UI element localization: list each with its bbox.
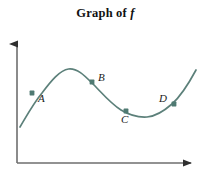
point-label-b: B <box>98 72 105 83</box>
plot-canvas <box>0 0 211 173</box>
point-label-d: D <box>159 93 167 104</box>
point-marker-a <box>30 91 35 96</box>
function-curve <box>20 69 196 127</box>
graph-figure: Graph of f A B C D <box>0 0 211 173</box>
point-label-c: C <box>121 114 128 125</box>
point-label-a: A <box>38 93 45 104</box>
point-marker-b <box>90 80 95 85</box>
point-marker-d <box>172 102 177 107</box>
